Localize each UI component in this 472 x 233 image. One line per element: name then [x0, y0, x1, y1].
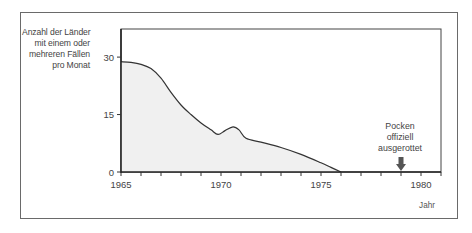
down-arrow-icon	[396, 157, 406, 171]
eradication-annotation: Pocken offiziell ausgerottet	[378, 121, 423, 171]
series-area	[121, 62, 341, 172]
annotation-line: ausgerottet	[378, 143, 423, 153]
x-axis-label: Jahr	[419, 201, 435, 210]
y-tick-label: 30	[103, 52, 114, 63]
chart-area: 015301965197019751980 Pocken offiziell a…	[0, 0, 472, 233]
annotation-line: offiziell	[387, 132, 414, 142]
x-tick-label: 1970	[210, 179, 231, 190]
x-tick-label: 1980	[410, 179, 431, 190]
annotation-line: Pocken	[385, 121, 414, 131]
x-tick-label: 1975	[310, 179, 331, 190]
y-tick-label: 15	[103, 109, 114, 120]
y-tick-label: 0	[109, 167, 114, 178]
x-tick-label: 1965	[110, 179, 131, 190]
